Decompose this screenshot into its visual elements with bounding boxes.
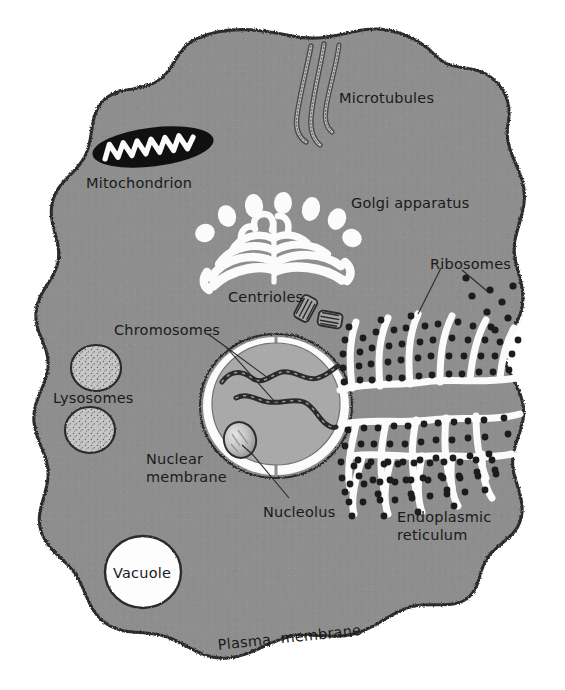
label-lysosomes: Lysosomes	[53, 390, 134, 407]
label-nucleolus: Nucleolus	[263, 504, 335, 521]
label-endoplasmic-reticulum: Endoplasmic reticulum	[397, 508, 491, 544]
label-chromosomes: Chromosomes	[114, 322, 220, 339]
label-mitochondrion: Mitochondrion	[86, 175, 192, 192]
label-ribosomes: Ribosomes	[430, 256, 511, 273]
label-microtubules: Microtubules	[339, 90, 434, 107]
label-centrioles: Centrioles	[228, 289, 303, 306]
label-nuclear-membrane: Nuclear membrane	[146, 450, 227, 486]
label-vacuole: Vacuole	[113, 565, 171, 582]
cell-diagram-canvas	[0, 0, 565, 690]
label-golgi-apparatus: Golgi apparatus	[351, 195, 469, 212]
cell-diagram-page: Microtubules Mitochondrion Golgi apparat…	[0, 0, 565, 690]
